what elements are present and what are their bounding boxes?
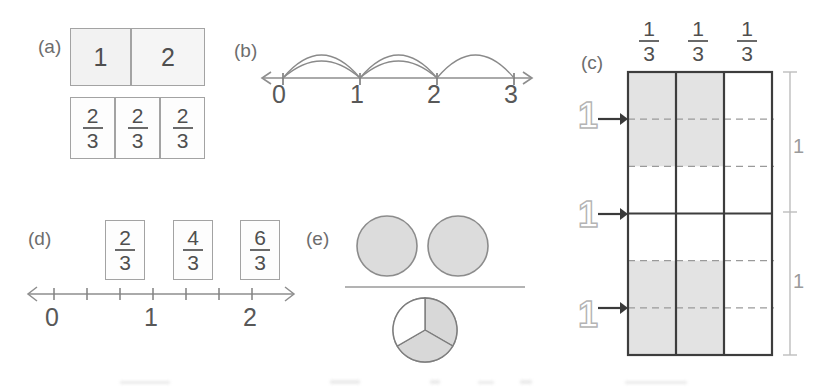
fraction-six-thirds: 6 3 <box>250 227 270 273</box>
panel-a-top-cell-2-label: 2 <box>161 43 175 72</box>
fraction-numerator: 1 <box>691 18 705 39</box>
panel-a-top-cell-1-label: 1 <box>94 43 108 72</box>
panel-b-tick-label-1: 1 <box>350 80 364 109</box>
fraction-numerator: 1 <box>740 18 754 39</box>
panel-label-d: (d) <box>28 228 51 250</box>
fraction-denominator: 3 <box>253 252 267 273</box>
fraction-one-third: 1 3 <box>688 18 708 64</box>
panel-c-row-marker-1: 1 <box>578 98 598 134</box>
fraction-denominator: 3 <box>691 43 705 64</box>
panel-d-boxed-fraction-1: 2 3 <box>105 220 145 280</box>
fraction-one-third: 1 3 <box>639 18 659 64</box>
fraction-two-thirds: 2 3 <box>128 105 148 151</box>
panel-c-column-header-3: 1 3 <box>737 18 757 64</box>
panel-d-boxed-fraction-3: 6 3 <box>240 220 280 280</box>
fraction-numerator: 2 <box>86 105 100 126</box>
panel-b-tick-label-0: 0 <box>272 80 286 109</box>
panel-c-column-header-2: 1 3 <box>688 18 708 64</box>
panel-e-full-circle-1 <box>357 216 417 276</box>
fraction-two-thirds: 2 3 <box>173 105 193 151</box>
fraction-denominator: 3 <box>131 130 145 151</box>
panel-b-numberline-arcs <box>255 28 540 90</box>
panel-c-row-marker-2: 1 <box>578 197 598 233</box>
fraction-numerator: 2 <box>176 105 190 126</box>
panel-a-top-cell-2: 2 <box>131 28 205 86</box>
panel-c-unit-brackets <box>782 70 798 358</box>
scan-artifact <box>625 381 687 384</box>
panel-d-axis-label-0: 0 <box>45 303 59 332</box>
panel-c-arrow-1 <box>598 112 628 126</box>
panel-label-c: (c) <box>581 52 603 74</box>
panel-d-axis-label-2: 2 <box>243 303 257 332</box>
panel-c-column-header-1: 1 3 <box>639 18 659 64</box>
fraction-four-thirds: 4 3 <box>183 227 203 273</box>
panel-d-numberline <box>20 282 302 306</box>
panel-e-circles <box>345 212 527 367</box>
fraction-denominator: 3 <box>642 43 656 64</box>
fraction-denominator: 3 <box>740 43 754 64</box>
fraction-numerator: 4 <box>186 227 200 248</box>
panel-a-top-cell-1: 1 <box>70 28 131 86</box>
panel-c-bracket-label-2: 1 <box>793 270 804 293</box>
panel-b-tick-label-3: 3 <box>504 80 518 109</box>
panel-a-bottom-cell-1: 2 3 <box>70 97 115 159</box>
panel-d-boxed-fraction-2: 4 3 <box>173 220 213 280</box>
panel-c-bracket-label-1: 1 <box>793 135 804 158</box>
fraction-one-third: 1 3 <box>737 18 757 64</box>
panel-a-bottom-cell-3: 2 3 <box>160 97 205 159</box>
panel-a-bottom-cell-2: 2 3 <box>115 97 160 159</box>
panel-e-pie <box>393 298 457 362</box>
scan-artifact <box>330 380 360 384</box>
scan-artifact <box>430 380 440 384</box>
fraction-figure: (a) 1 2 2 3 2 3 2 3 (b) <box>0 0 813 389</box>
fraction-numerator: 2 <box>118 227 132 248</box>
panel-b-tick-label-2: 2 <box>427 80 441 109</box>
panel-c-arrow-3 <box>598 301 628 315</box>
panel-d-axis-label-1: 1 <box>144 303 158 332</box>
panel-label-a: (a) <box>38 36 61 58</box>
fraction-numerator: 2 <box>131 105 145 126</box>
panel-c-grid <box>628 72 774 358</box>
fraction-denominator: 3 <box>176 130 190 151</box>
fraction-denominator: 3 <box>118 252 132 273</box>
panel-c-row-marker-3: 1 <box>578 297 598 333</box>
fraction-two-thirds: 2 3 <box>83 105 103 151</box>
panel-label-e: (e) <box>306 228 329 250</box>
scan-artifact <box>120 381 170 384</box>
fraction-numerator: 1 <box>642 18 656 39</box>
fraction-denominator: 3 <box>86 130 100 151</box>
scan-artifact <box>478 381 494 384</box>
panel-e-full-circle-2 <box>428 216 488 276</box>
fraction-numerator: 6 <box>253 227 267 248</box>
panel-c-arrow-2 <box>598 207 628 221</box>
fraction-two-thirds: 2 3 <box>115 227 135 273</box>
scan-artifact <box>520 380 532 384</box>
panel-label-b: (b) <box>234 40 257 62</box>
fraction-denominator: 3 <box>186 252 200 273</box>
